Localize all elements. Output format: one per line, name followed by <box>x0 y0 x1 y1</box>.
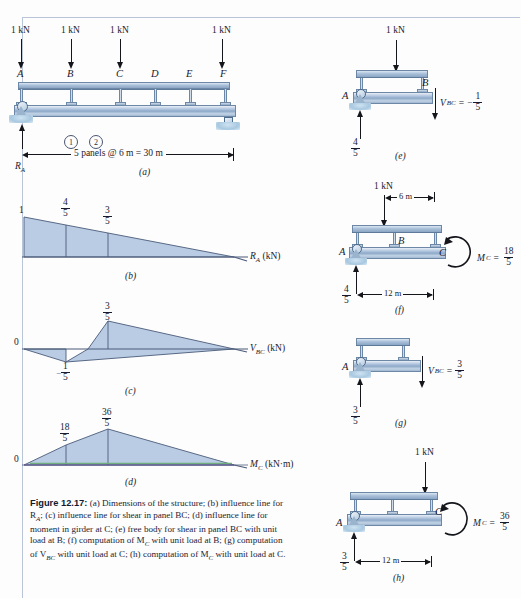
ordinate-label-1: 1 <box>19 206 24 216</box>
reaction-f-num: 4 <box>342 285 351 295</box>
caption-p9: with unit load at B; <box>149 535 222 545</box>
result-e-eq: = <box>459 98 464 108</box>
dim-f-bot-arrow-left <box>357 292 363 298</box>
dim-f-bot-tick <box>433 289 434 300</box>
result-g-eq: = <box>447 366 452 376</box>
reaction-h-num: 3 <box>340 552 349 562</box>
result-h-num: 36 <box>498 512 512 522</box>
axis-label-mc-sub: C <box>258 464 263 472</box>
joint-label-c: C <box>116 68 123 79</box>
panel-h: 1 kN A C 35 12 m <box>290 443 521 598</box>
influence-line-ra-plot <box>0 195 290 275</box>
result-e-sign: − <box>467 98 472 108</box>
joint-label-f: F <box>220 68 226 79</box>
result-e-sub: BC <box>447 99 456 107</box>
caption-p0: (a) Dimensions of the structure; <box>90 498 206 508</box>
dim-f-bot-label: 12 m <box>382 288 403 298</box>
panel-h-tag: (h) <box>393 573 404 583</box>
floor-beam-e <box>189 89 192 103</box>
floor-beam-c <box>119 89 122 103</box>
load-label-e: 1 kN <box>386 26 405 36</box>
reaction-f-head <box>353 265 359 272</box>
load-arrow-h-shaft <box>425 462 426 490</box>
dim-f-top-label: 6 m <box>397 191 414 201</box>
axis-label-mc-main: M <box>250 459 258 469</box>
floor-beam-f <box>224 89 227 103</box>
trough-c-den: 5 <box>61 372 70 383</box>
caption-sub-vbc: BC <box>46 554 55 562</box>
load-label-b: 1 kN <box>61 26 80 36</box>
reaction-h-den: 5 <box>340 562 349 573</box>
ordinate-36-5-den: 5 <box>102 418 111 429</box>
result-e-num: 1 <box>473 92 482 102</box>
panel-e: 1 kN A B 45 VBC = − 15 ( <box>290 12 521 164</box>
result-e: VBC = − 15 <box>440 93 482 113</box>
roller-support-pad <box>216 122 240 130</box>
load-arrow-e-shaft <box>396 40 397 68</box>
panel-c-tag: (c) <box>125 386 136 396</box>
result-e-den: 5 <box>473 102 482 113</box>
joint-label-e-a: A <box>342 90 348 101</box>
reaction-f-den: 5 <box>342 295 351 306</box>
zero-label-c: 0 <box>14 338 19 348</box>
trough-c-num: 1 <box>61 362 70 372</box>
ordinate-36-5-num: 36 <box>100 408 114 418</box>
dimension-tick-right <box>233 148 234 161</box>
shear-e-head <box>432 113 438 120</box>
panel-c: 0 35 − 15 VBC (kN) (c) <box>0 300 290 425</box>
panel-b: 1 45 35 RA (kN) (b) <box>0 195 290 300</box>
axis-label-ra-sub: A <box>256 256 260 264</box>
joint-label-a: A <box>17 68 23 79</box>
result-f-sub: C <box>486 254 491 262</box>
result-f-num: 18 <box>502 247 516 257</box>
reaction-g-value: 35 <box>351 407 360 427</box>
reaction-e-value: 45 <box>351 139 360 159</box>
peak-c-num: 3 <box>103 302 112 312</box>
result-h-label: M <box>473 518 481 528</box>
dim-h-tick <box>431 556 432 567</box>
result-f: MC = 185 <box>477 248 515 268</box>
ordinate-label-3-5: 35 <box>103 207 112 227</box>
ordinate-4-5-den: 5 <box>61 208 70 219</box>
dim-h-arrow-left <box>355 559 361 565</box>
shear-g-shaft <box>422 356 423 384</box>
caption-p12: with unit load at C; <box>55 549 128 559</box>
ordinate-3-5-num: 3 <box>103 206 112 216</box>
joint-label-f-b: B <box>398 235 404 246</box>
result-e-label: V <box>440 98 446 108</box>
ordinate-18-5-num: 18 <box>58 423 72 433</box>
figure-page: 1 kN 1 kN 1 kN 1 kN A B C D E F <box>0 0 521 598</box>
panel-badge-2: 2 <box>89 135 103 149</box>
pin-support-f-pad <box>345 258 367 265</box>
reaction-e-den: 5 <box>351 148 360 159</box>
result-h-sub: C <box>482 519 487 527</box>
stringer-e-shadow <box>356 77 428 78</box>
panel-f: 1 kN 6 m A B C 45 <box>290 164 521 316</box>
joint-label-b: B <box>67 68 73 79</box>
pin-support-h-pad <box>343 525 365 532</box>
result-h-eq: = <box>490 518 495 528</box>
reaction-g-num: 3 <box>351 406 360 416</box>
reaction-h-head <box>351 532 357 539</box>
ordinate-4-5-num: 4 <box>61 198 70 208</box>
load-label-a: 1 kN <box>11 26 30 36</box>
shear-g-head <box>419 381 425 388</box>
influence-line-mc-plot <box>0 420 290 490</box>
dim-f-top-tick <box>434 192 435 202</box>
joint-label-h-a: A <box>336 517 342 528</box>
floor-beam-b <box>70 89 73 103</box>
trough-label-c: − 15 <box>56 363 70 383</box>
joint-label-d: D <box>151 68 159 79</box>
peak-c-den: 5 <box>103 312 112 323</box>
panel-f-tag: (f) <box>395 305 404 315</box>
zero-label-d: 0 <box>14 455 19 465</box>
panel-badge-1: 1 <box>64 135 78 149</box>
figure-caption: Figure 12.17: (a) Dimensions of the stru… <box>30 498 286 563</box>
load-label-f2: 1 kN <box>374 182 393 192</box>
panel-a-tag: (a) <box>139 167 150 177</box>
pin-support-e-pad <box>349 103 371 110</box>
pin-support-h-triangle <box>349 516 359 525</box>
load-label-c: 1 kN <box>110 26 129 36</box>
stringer-shadow <box>18 89 230 90</box>
pin-support-triangle <box>16 106 26 115</box>
